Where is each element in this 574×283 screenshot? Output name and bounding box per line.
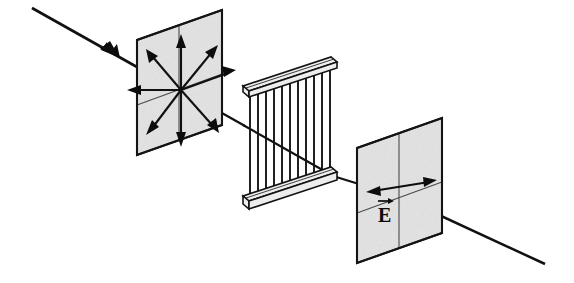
polarization-figure: E: [0, 0, 574, 283]
star-arrowhead-e: [222, 66, 236, 77]
e-field-label: E: [378, 204, 391, 226]
star-arrowhead-w: [127, 85, 141, 95]
figure-canvas: E: [0, 0, 574, 283]
polarizer-group: [243, 57, 337, 209]
screen-two-group: [350, 112, 450, 272]
